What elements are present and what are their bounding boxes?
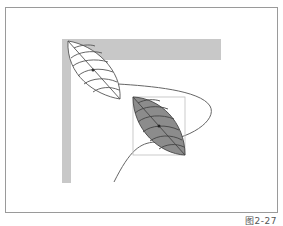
leaf-center-dot bbox=[158, 125, 161, 128]
diagram-canvas bbox=[0, 0, 283, 226]
figure-caption: 图2-27 bbox=[245, 214, 277, 226]
leaf-center-dot bbox=[92, 69, 95, 72]
